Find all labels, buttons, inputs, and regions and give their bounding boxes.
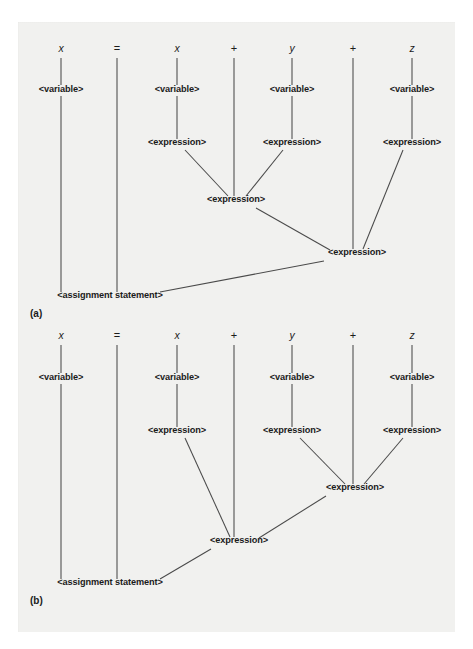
terminal-token-6: z	[408, 42, 415, 54]
panel-a-terminals: x=x+y+z	[57, 42, 415, 54]
terminal-token-0: x	[57, 329, 64, 341]
tree-edge-expr-top-to-assign	[160, 549, 211, 579]
tree-edge-expr-x2-to-top	[185, 438, 230, 537]
tree-node-b-var-y: <variable>	[270, 372, 314, 382]
tree-node-a-var-x2: <variable>	[155, 84, 199, 94]
tree-node-b-assign: <assignment statement>	[57, 577, 163, 587]
tree-node-b-var-x2: <variable>	[155, 372, 199, 382]
terminal-token-5: +	[350, 329, 356, 341]
tree-edge-expr-top-to-assign	[160, 261, 324, 292]
tree-edge-expr-xy-to-top	[256, 208, 330, 250]
tree-node-a-expr-top: <expression>	[328, 247, 386, 257]
terminal-token-1: =	[114, 329, 120, 341]
tree-node-b-var-z: <variable>	[390, 372, 434, 382]
tree-edge-expr-z-to-top	[363, 150, 403, 249]
panel-b-terminals: x=x+y+z	[57, 329, 415, 341]
panel-b-caption: (b)	[30, 595, 43, 606]
terminal-token-6: z	[408, 329, 415, 341]
tree-node-b-expr-top: <expression>	[210, 535, 268, 545]
tree-node-b-expr-yz: <expression>	[326, 482, 384, 492]
tree-node-b-expr-z: <expression>	[383, 425, 441, 435]
tree-node-a-expr-z: <expression>	[383, 137, 441, 147]
tree-edge-expr-y-to-xy	[246, 150, 283, 196]
tree-node-a-var-y: <variable>	[270, 84, 314, 94]
parse-tree-canvas: x=x+y+z <variable><variable><variable><v…	[0, 0, 473, 649]
tree-node-b-expr-x2: <expression>	[148, 425, 206, 435]
terminal-token-1: =	[114, 42, 120, 54]
tree-node-a-var-x1: <variable>	[39, 84, 83, 94]
tree-node-a-expr-xy: <expression>	[207, 194, 265, 204]
panel-a-caption: (a)	[30, 308, 42, 319]
tree-edge-expr-yz-to-top	[259, 496, 326, 538]
panel-b-nodes: <variable><variable><variable><variable>…	[39, 372, 441, 587]
terminal-token-4: y	[288, 42, 295, 54]
panel-a-nodes: <variable><variable><variable><variable>…	[39, 84, 441, 300]
terminal-token-4: y	[288, 329, 295, 341]
terminal-token-2: x	[173, 329, 180, 341]
tree-node-b-expr-y: <expression>	[263, 425, 321, 435]
tree-node-a-var-z: <variable>	[390, 84, 434, 94]
terminal-token-0: x	[57, 42, 64, 54]
terminal-token-3: +	[231, 329, 237, 341]
tree-edge-expr-x2-to-xy	[185, 150, 228, 196]
tree-node-b-var-x1: <variable>	[39, 372, 83, 382]
tree-node-a-expr-y: <expression>	[263, 137, 321, 147]
parse-tree-figure: x=x+y+z <variable><variable><variable><v…	[0, 0, 473, 649]
tree-node-a-assign: <assignment statement>	[57, 290, 163, 300]
terminal-token-5: +	[350, 42, 356, 54]
tree-edge-expr-z-to-yz	[364, 438, 403, 484]
tree-node-a-expr-x2: <expression>	[148, 137, 206, 147]
tree-edge-expr-y-to-yz	[300, 438, 345, 484]
terminal-token-2: x	[173, 42, 180, 54]
terminal-token-3: +	[231, 42, 237, 54]
